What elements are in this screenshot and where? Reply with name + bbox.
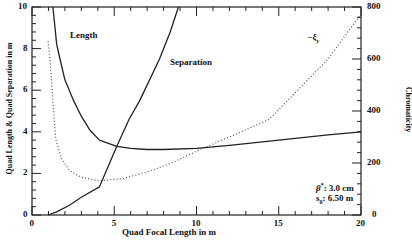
- y-tick-label-left: 0: [23, 210, 28, 219]
- y-tick-label-left: 8: [23, 44, 28, 53]
- y-axis-label-right: Chromaticity: [404, 70, 412, 150]
- chromaticity-curve-label: −ξy: [307, 33, 319, 44]
- y-tick-label-right: 600: [367, 54, 381, 63]
- y-tick-label-right: 0: [372, 210, 377, 219]
- x-axis-label: Quad Focal Length in m: [122, 228, 216, 237]
- plot-area: [0, 0, 412, 241]
- beta-star-annotation: β*: 3.0 cm: [316, 182, 354, 193]
- y-axis-label-left: Quad Length & Quad Separation in m: [5, 4, 14, 214]
- y-tick-label-right: 400: [367, 106, 381, 115]
- x-tick-label: 0: [30, 219, 35, 228]
- y-tick-label-left: 4: [23, 127, 28, 136]
- x-tick-label: 20: [356, 219, 365, 228]
- y-tick-label-left: 6: [23, 85, 28, 94]
- x-tick-label: 15: [274, 219, 283, 228]
- series-length-curve: [53, 7, 361, 150]
- separation-curve-label: Separation: [170, 58, 212, 67]
- length-curve-label: Length: [70, 31, 98, 40]
- y-tick-label-left: 10: [18, 2, 27, 11]
- y-tick-label-left: 2: [23, 168, 28, 177]
- y-tick-label-right: 800: [367, 2, 381, 11]
- x-tick-label: 5: [112, 219, 117, 228]
- series-separation-curve: [48, 7, 178, 215]
- y-tick-label-right: 200: [367, 158, 381, 167]
- chart-figure: 0246810 0200400600800 05101520 Quad Leng…: [0, 0, 412, 241]
- s0-annotation: s0: 6.50 m: [316, 194, 353, 205]
